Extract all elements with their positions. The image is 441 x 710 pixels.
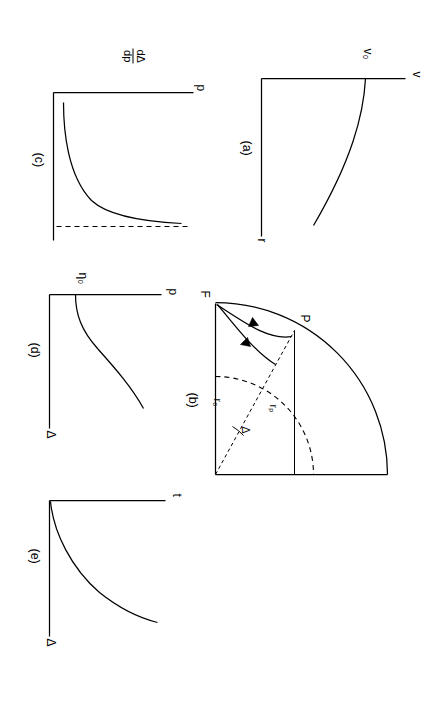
panel-d: p η₀ Δ (d) [21, 268, 171, 443]
panel-b-diagram [182, 268, 427, 498]
panel-b-label-rp: rₚ [267, 404, 279, 413]
panel-d-x-axis-label: Δ [43, 430, 57, 438]
panel-b-caption: (b) [185, 392, 199, 407]
figure-rotated-container: v v₀ r (a) dΔ dp p (c) [0, 0, 441, 710]
panel-a: v v₀ r (a) [238, 40, 413, 250]
panel-b: F P rₚ r₀ Δ (b) [182, 268, 427, 498]
panel-b-label-delta: Δ [239, 426, 251, 433]
panel-e: t Δ (e) [21, 472, 171, 652]
panel-a-y-axis-label: v [409, 71, 423, 77]
panel-c-y-denominator: dp [121, 48, 133, 63]
panel-d-plot [21, 268, 171, 443]
panel-c-y-numerator: dΔ [132, 48, 145, 63]
panel-d-caption: (d) [27, 342, 41, 357]
panel-b-label-r0: r₀ [211, 398, 223, 406]
panel-b-label-F: F [197, 290, 211, 297]
panel-a-x-axis-label: r [254, 238, 268, 242]
panel-a-plot [238, 40, 413, 250]
panel-d-y-axis-label: p [165, 288, 179, 295]
panel-d-eta0-label: η₀ [75, 272, 89, 284]
panel-c-y-axis-label: dΔ dp [121, 48, 145, 63]
panel-a-caption: (a) [239, 140, 253, 155]
panel-c: dΔ dp p (c) [23, 40, 203, 255]
figure-page: v v₀ r (a) dΔ dp p (c) [0, 0, 441, 710]
panel-b-label-P: P [297, 314, 311, 322]
panel-c-caption: (c) [31, 152, 45, 167]
panel-c-plot [23, 40, 203, 255]
panel-e-plot [21, 472, 171, 652]
panel-e-caption: (e) [27, 548, 41, 563]
panel-c-x-axis-label: p [193, 84, 207, 91]
panel-e-x-axis-label: Δ [43, 638, 57, 646]
panel-e-y-axis-label: t [169, 493, 183, 496]
panel-a-v0-label: v₀ [360, 48, 374, 59]
